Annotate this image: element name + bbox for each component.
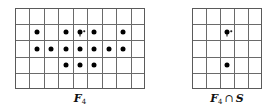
- grid-line-vertical: [102, 9, 103, 88]
- panel-label-f4: F4: [74, 92, 86, 106]
- grid-line-vertical: [87, 9, 88, 88]
- grid-line-horizontal: [16, 40, 144, 41]
- grid-line-vertical: [220, 9, 221, 88]
- grid-line-vertical: [29, 9, 30, 88]
- lattice-point: [121, 30, 126, 35]
- lattice-point: [92, 46, 97, 51]
- grid-line-horizontal: [16, 57, 144, 58]
- lattice-point: [63, 46, 68, 51]
- point-annotation-mark: [230, 31, 232, 33]
- grid-line-vertical: [73, 9, 74, 88]
- grid-line-horizontal: [193, 57, 261, 58]
- lattice-point: [78, 62, 83, 67]
- lattice-grid-f4: [15, 8, 145, 89]
- lattice-point: [225, 62, 230, 67]
- lattice-point-marked: [225, 30, 230, 35]
- grid-line-vertical: [206, 9, 207, 88]
- intersection-symbol: ∩: [225, 92, 234, 105]
- grid-line-horizontal: [16, 24, 144, 25]
- grid-line-vertical: [234, 9, 235, 88]
- grid-line-horizontal: [16, 73, 144, 74]
- grid-line-horizontal: [193, 73, 261, 74]
- lattice-point: [34, 46, 39, 51]
- label-main: F: [74, 92, 82, 105]
- lattice-point: [121, 46, 126, 51]
- grid-line-vertical: [58, 9, 59, 88]
- grid-line-vertical: [248, 9, 249, 88]
- panel-label-f4-intersect-s: F4∩S: [210, 92, 243, 106]
- point-annotation-mark: [83, 31, 85, 33]
- lattice-grid-f4-intersect-s: [192, 8, 262, 89]
- lattice-point-marked: [78, 30, 83, 35]
- lattice-figure: F4 F4∩S: [0, 0, 274, 110]
- grid-line-vertical: [131, 9, 132, 88]
- lattice-point: [106, 46, 111, 51]
- lattice-point: [78, 46, 83, 51]
- label-rest: S: [236, 92, 244, 105]
- grid-line-vertical: [116, 9, 117, 88]
- label-main: F: [210, 92, 218, 105]
- lattice-point: [49, 46, 54, 51]
- lattice-point: [34, 30, 39, 35]
- label-subscript: 4: [82, 98, 86, 106]
- lattice-point: [63, 62, 68, 67]
- lattice-point: [92, 62, 97, 67]
- grid-line-horizontal: [193, 40, 261, 41]
- grid-line-horizontal: [193, 24, 261, 25]
- lattice-point: [63, 30, 68, 35]
- grid-line-vertical: [44, 9, 45, 88]
- label-subscript: 4: [218, 98, 222, 106]
- lattice-point: [92, 30, 97, 35]
